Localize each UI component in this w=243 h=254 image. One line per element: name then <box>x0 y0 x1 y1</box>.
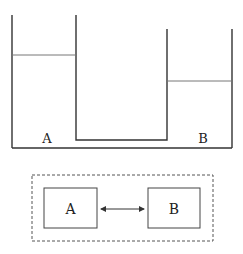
box-a-label: A <box>64 201 76 217</box>
box-b-label: B <box>169 201 179 217</box>
diagram-canvas: A B A B <box>0 0 243 254</box>
container-a-label: A <box>41 131 52 146</box>
inner-partition <box>76 15 167 140</box>
system-boundary <box>32 175 213 241</box>
container-b-label: B <box>198 131 208 146</box>
